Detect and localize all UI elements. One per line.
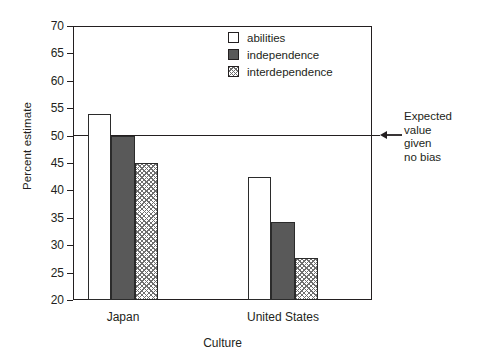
y-axis-title: Percent estimate	[21, 46, 33, 246]
expected-value-note: Expectedvaluegivenno bias	[404, 110, 478, 164]
x-axis-title: Culture	[73, 336, 372, 350]
legend-item-independence: independence	[228, 46, 333, 63]
legend-item-abilities: abilities	[228, 29, 333, 46]
legend-label: abilities	[247, 32, 285, 44]
x-axis-group-label: Japan	[63, 310, 183, 324]
y-axis-tick-label: 20	[38, 294, 64, 306]
bar-japan-abilities	[88, 114, 112, 300]
legend-swatch-hatch	[228, 66, 239, 77]
expected-value-note-line: no bias	[404, 151, 478, 165]
legend-swatch-white	[228, 32, 239, 43]
y-axis-tick-label: 65	[38, 47, 64, 59]
chart-figure: Percent estimate 7065605550454035302520 …	[0, 0, 478, 360]
y-axis-tick-label: 70	[38, 20, 64, 32]
legend-item-interdependence: interdependence	[228, 63, 333, 80]
legend-label: independence	[247, 49, 319, 61]
y-axis-tick-label: 45	[38, 157, 64, 169]
y-axis-tick-mark	[67, 300, 73, 301]
y-axis-tick-label: 30	[38, 239, 64, 251]
legend-swatch-gray	[228, 49, 239, 60]
bar-united-states-interdependence	[295, 258, 319, 300]
y-axis-tick-label: 50	[38, 130, 64, 142]
y-axis-tick-label: 35	[38, 212, 64, 224]
expected-value-note-line: given	[404, 137, 478, 151]
arrow-left-icon	[380, 128, 402, 142]
expected-value-note-line: value	[404, 124, 478, 138]
bar-united-states-abilities	[248, 177, 272, 300]
y-axis-tick-label: 40	[38, 184, 64, 196]
bar-japan-interdependence	[135, 163, 159, 300]
y-axis-tick-label: 60	[38, 75, 64, 87]
x-axis-group-label: United States	[223, 310, 343, 324]
expected-value-note-line: Expected	[404, 110, 478, 124]
legend-label: interdependence	[247, 66, 333, 78]
chart-legend: abilitiesindependenceinterdependence	[228, 29, 333, 80]
y-axis-tick-label: 25	[38, 267, 64, 279]
bar-japan-independence	[111, 136, 135, 300]
y-axis-tick-label: 55	[38, 102, 64, 114]
bar-united-states-independence	[271, 222, 295, 300]
